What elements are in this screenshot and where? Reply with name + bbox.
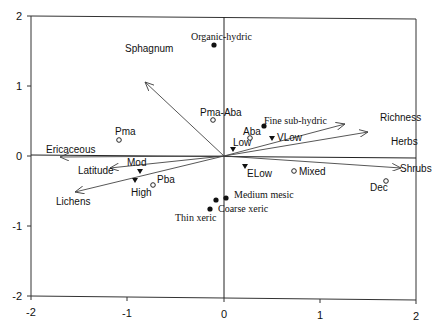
point-label-medium-mesic: Medium mesic (234, 189, 294, 200)
vector-label-latitude: Latitude (78, 165, 114, 176)
y-tick-label: 2 (16, 10, 22, 22)
vector-label-sphagnum: Sphagnum (125, 43, 173, 54)
triangle-down-icon (132, 178, 138, 183)
filled-circle-icon (207, 206, 212, 211)
x-tick-label: 1 (317, 309, 323, 321)
filled-circle-icon (211, 42, 216, 47)
x-tick-label: -1 (122, 307, 132, 319)
point-label-pba: Pba (157, 174, 175, 185)
vector-label-herbs: Herbs (391, 136, 418, 147)
point-label-mod: Mod (127, 157, 146, 168)
x-tick-label: 2 (413, 310, 419, 322)
vector-label-lichens: Lichens (56, 196, 90, 207)
open-circle-icon (211, 118, 216, 123)
point-label-organic-hydric: Organic-hydric (191, 31, 252, 42)
point-label-dec: Dec (370, 182, 388, 193)
y-tick-label: -2 (12, 290, 22, 302)
point-label-aba: Aba (243, 126, 261, 137)
stand-points: Pma Pma-Aba Aba Pba Mixed Dec (115, 107, 388, 193)
point-label-pma: Pma (115, 126, 136, 137)
point-label-coarse-xeric: Coarse xeric (218, 203, 269, 214)
vector-label-ericaceous: Ericaceous (46, 144, 95, 155)
point-label-thin-xeric: Thin xeric (175, 212, 217, 223)
triangle-down-icon (137, 169, 143, 174)
biplot-chart: 2 1 0 -1 -2 -2 -1 0 1 2 Sphagnum Ericace… (0, 0, 440, 328)
vector-label-shrubs: Shrubs (400, 163, 432, 174)
point-label-fine-sub-hydric: Fine sub-hydric (264, 115, 328, 126)
y-tick-label: -1 (12, 220, 22, 232)
filled-circle-icon (213, 197, 218, 202)
y-tick-label: 0 (16, 150, 22, 162)
triangle-down-icon (269, 136, 275, 141)
x-tick-label: -2 (26, 306, 36, 318)
point-label-low: Low (233, 137, 252, 148)
x-tick-label: 0 (221, 308, 227, 320)
y-tick-label: 1 (16, 80, 22, 92)
point-label-mixed: Mixed (299, 166, 326, 177)
point-label-high: High (131, 187, 152, 198)
vector-label-richness: Richness (380, 112, 421, 123)
filled-circle-icon (223, 195, 228, 200)
y-axis-ticks: 2 1 0 -1 -2 (12, 10, 31, 302)
point-label-elow: ELow (247, 168, 273, 179)
open-circle-icon (292, 169, 297, 174)
open-circle-icon (117, 138, 122, 143)
point-label-pma-aba: Pma-Aba (200, 107, 242, 118)
point-label-vlow: VLow (277, 132, 303, 143)
